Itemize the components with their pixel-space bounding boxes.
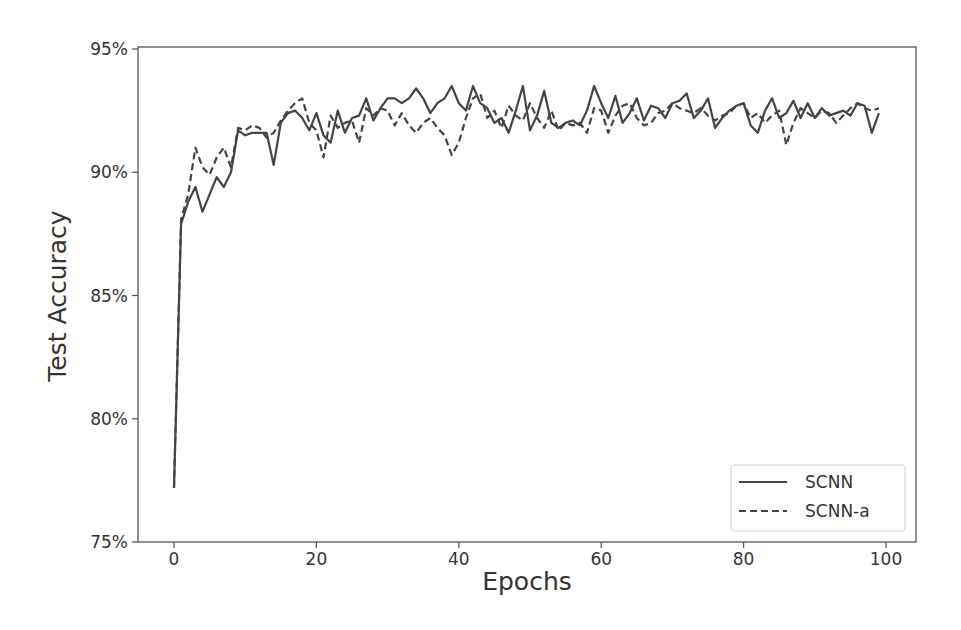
line-chart: 020406080100 75%80%85%90%95% Epochs Test… [0, 0, 961, 630]
y-axis-ticks: 75%80%85%90%95% [90, 39, 138, 552]
y-tick-label: 90% [90, 162, 128, 182]
y-tick-label: 75% [90, 532, 128, 552]
x-tick-label: 60 [590, 549, 612, 569]
x-tick-label: 0 [169, 549, 180, 569]
series-line-scnn [174, 86, 879, 488]
x-tick-label: 40 [448, 549, 470, 569]
legend: SCNN SCNN-a [731, 465, 905, 531]
series-line-scnn-a [174, 93, 879, 487]
x-tick-label: 100 [870, 549, 902, 569]
x-tick-label: 20 [306, 549, 328, 569]
legend-label-scnn-a: SCNN-a [805, 501, 870, 521]
y-axis-title: Test Accuracy [43, 210, 72, 383]
legend-label-scnn: SCNN [805, 472, 853, 492]
y-tick-label: 80% [90, 409, 128, 429]
x-axis-ticks: 020406080100 [169, 542, 903, 569]
x-tick-label: 80 [733, 549, 755, 569]
x-axis-title: Epochs [482, 567, 572, 596]
y-tick-label: 95% [90, 39, 128, 59]
y-tick-label: 85% [90, 286, 128, 306]
plot-area [174, 86, 879, 488]
